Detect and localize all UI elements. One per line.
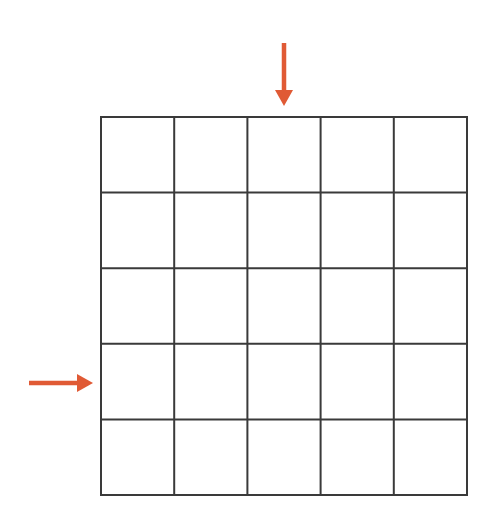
grid-cell-r5-c5: [394, 419, 467, 495]
grid-cell-r3-c1: [101, 268, 174, 344]
grid-cell-r4-c2: [174, 344, 247, 420]
grid-cell-r4-c5: [394, 344, 467, 420]
column-indicator-arrow-icon: [275, 43, 293, 106]
arrow-shaft: [29, 381, 78, 386]
grid-cell-r5-c1: [101, 419, 174, 495]
diagram-canvas: [0, 0, 500, 523]
grid-cell-r4-c3: [247, 344, 320, 420]
grid-cell-r5-c2: [174, 419, 247, 495]
grid-cell-r1-c1: [101, 117, 174, 193]
grid-cell-r4-c4: [321, 344, 394, 420]
grid-cell-r2-c5: [394, 193, 467, 269]
grid-cell-r5-c3: [247, 419, 320, 495]
grid-cell-r1-c3: [247, 117, 320, 193]
grid-cell-r2-c2: [174, 193, 247, 269]
grid-cell-r3-c4: [321, 268, 394, 344]
row-indicator-arrow-icon: [29, 374, 93, 392]
arrow-shaft: [282, 43, 287, 91]
arrow-head: [275, 90, 293, 106]
grid-cell-r4-c1: [101, 344, 174, 420]
grid-cell-r2-c4: [321, 193, 394, 269]
grid-cell-r3-c3: [247, 268, 320, 344]
grid-diagram: [0, 0, 500, 523]
grid-cell-r3-c2: [174, 268, 247, 344]
grid-cell-r3-c5: [394, 268, 467, 344]
grid-cell-r2-c1: [101, 193, 174, 269]
grid-cell-r1-c2: [174, 117, 247, 193]
grid-cell-r5-c4: [321, 419, 394, 495]
grid-cell-r1-c4: [321, 117, 394, 193]
grid-cell-r2-c3: [247, 193, 320, 269]
arrow-head: [77, 374, 93, 392]
grid-cell-r1-c5: [394, 117, 467, 193]
grid-5x5: [101, 117, 467, 495]
